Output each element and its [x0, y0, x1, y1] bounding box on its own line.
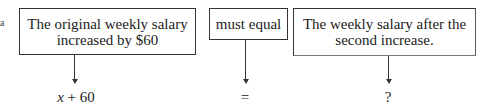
down-arrow-icon	[245, 40, 246, 80]
variable-x: x	[57, 89, 64, 105]
phrase-box-original-salary: The original weekly salary increased by …	[19, 8, 196, 55]
margin-mark: a	[0, 17, 4, 28]
expression-left: x + 60	[57, 89, 95, 106]
phrase-text: must equal	[216, 16, 281, 32]
phrase-text: The weekly salary after the second incre…	[294, 16, 475, 48]
down-arrow-icon	[388, 56, 389, 80]
phrase-box-must-equal: must equal	[209, 8, 288, 40]
phrase-box-second-increase: The weekly salary after the second incre…	[293, 8, 476, 56]
down-arrow-icon	[74, 55, 75, 80]
phrase-text: The original weekly salary increased by …	[20, 16, 195, 48]
expression-equals: =	[241, 89, 249, 106]
expression-rest: + 60	[64, 89, 95, 105]
expression-unknown: ?	[385, 89, 392, 106]
